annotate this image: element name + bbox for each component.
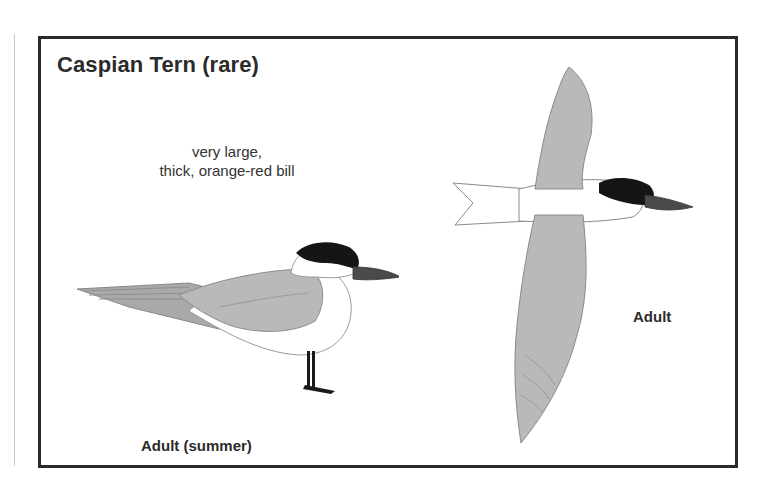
- margin-rule: [14, 34, 15, 466]
- perched-tern-illustration: [69, 233, 399, 403]
- species-plate: Caspian Tern (rare) very large, thick, o…: [38, 36, 738, 468]
- field-note: very large, thick, orange-red bill: [127, 142, 327, 180]
- perched-adult-caption: Adult (summer): [141, 437, 252, 454]
- flying-tern-illustration: [449, 65, 699, 445]
- field-note-line-1: very large,: [127, 142, 327, 161]
- field-note-line-2: thick, orange-red bill: [127, 161, 327, 180]
- flying-adult-caption: Adult: [633, 308, 671, 325]
- species-title: Caspian Tern (rare): [57, 52, 259, 78]
